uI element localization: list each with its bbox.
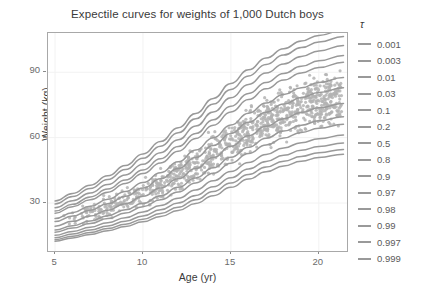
legend-items: 0.0010.0030.010.030.10.20.50.80.90.970.9… — [358, 36, 431, 267]
legend-item-label: 0.003 — [377, 55, 401, 66]
legend-item[interactable]: 0.5 — [358, 135, 431, 152]
legend-item[interactable]: 0.03 — [358, 86, 431, 103]
legend-item[interactable]: 0.997 — [358, 234, 431, 251]
legend-line-icon — [358, 258, 371, 260]
scatter-points — [62, 69, 343, 225]
legend-item[interactable]: 0.1 — [358, 102, 431, 119]
x-tick-label: 5 — [39, 256, 69, 267]
legend-line-icon — [358, 142, 371, 144]
legend-item[interactable]: 0.003 — [358, 53, 431, 70]
legend-item[interactable]: 0.01 — [358, 69, 431, 86]
legend-item[interactable]: 0.97 — [358, 185, 431, 202]
legend-item-label: 0.001 — [377, 39, 401, 50]
legend-line-icon — [358, 192, 371, 194]
legend-item[interactable]: 0.98 — [358, 201, 431, 218]
legend-item-label: 0.98 — [377, 204, 396, 215]
legend-item-label: 0.99 — [377, 220, 396, 231]
x-tick-label: 15 — [215, 256, 245, 267]
legend-item-label: 0.1 — [377, 105, 390, 116]
x-tick-label: 10 — [127, 256, 157, 267]
legend-item[interactable]: 0.8 — [358, 152, 431, 169]
legend-item[interactable]: 0.9 — [358, 168, 431, 185]
plot-panel — [47, 32, 348, 252]
legend-item-label: 0.5 — [377, 138, 390, 149]
legend-item-label: 0.97 — [377, 187, 396, 198]
chart-figure: Expectile curves for weights of 1,000 Du… — [0, 0, 431, 295]
legend-line-icon — [358, 126, 371, 128]
legend-line-icon — [358, 159, 371, 161]
legend-line-icon — [358, 76, 371, 78]
legend-item-label: 0.997 — [377, 237, 401, 248]
legend-item-label: 0.2 — [377, 121, 390, 132]
legend-item[interactable]: 0.001 — [358, 36, 431, 53]
expectile-curve — [55, 55, 343, 211]
legend-item-label: 0.8 — [377, 154, 390, 165]
legend-item-label: 0.01 — [377, 72, 396, 83]
plot-canvas — [48, 33, 347, 251]
legend-item-label: 0.999 — [377, 253, 401, 264]
legend-title: τ — [360, 18, 431, 30]
legend-line-icon — [358, 109, 371, 111]
legend-item[interactable]: 0.99 — [358, 218, 431, 235]
x-tick-label: 20 — [303, 256, 333, 267]
legend-line-icon — [358, 208, 371, 210]
legend-line-icon — [358, 43, 371, 45]
legend-line-icon — [358, 60, 371, 62]
legend-line-icon — [358, 175, 371, 177]
legend: τ 0.0010.0030.010.030.10.20.50.80.90.970… — [358, 18, 431, 267]
legend-item-label: 0.03 — [377, 88, 396, 99]
legend-item[interactable]: 0.2 — [358, 119, 431, 136]
legend-line-icon — [358, 93, 371, 95]
legend-line-icon — [358, 225, 371, 227]
legend-item-label: 0.9 — [377, 171, 390, 182]
legend-line-icon — [358, 241, 371, 243]
legend-item[interactable]: 0.999 — [358, 251, 431, 268]
